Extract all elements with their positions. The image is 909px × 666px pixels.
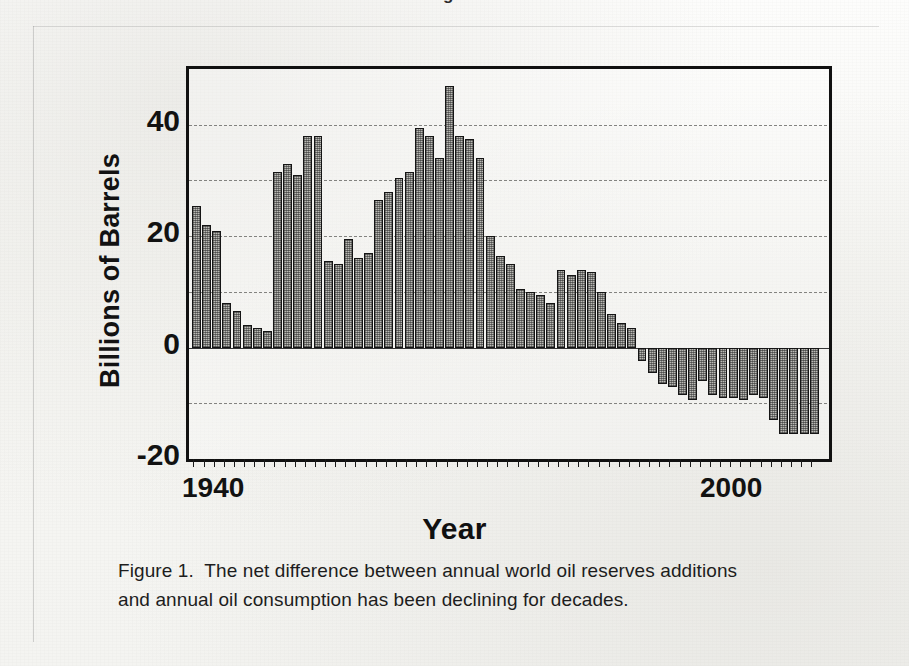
- bar-1999: [789, 348, 798, 434]
- bar-1952: [314, 136, 323, 348]
- x-tick-1976: [558, 459, 559, 467]
- x-tick-1946: [254, 459, 255, 467]
- y-tick-label-0: 0: [94, 329, 180, 359]
- x-tick-1985: [649, 459, 650, 467]
- x-tick-1962: [416, 459, 417, 467]
- bar-1967: [465, 139, 474, 348]
- x-tick-1972: [518, 459, 519, 467]
- x-tick-1998: [781, 459, 782, 467]
- x-tick-1988: [680, 459, 681, 467]
- x-tick-1983: [629, 459, 630, 467]
- x-tick-1984: [639, 459, 640, 467]
- bar-1973: [526, 292, 535, 348]
- x-tick-1967: [467, 459, 468, 467]
- x-tick-label-1940: 1940: [182, 474, 244, 502]
- bar-2000: [800, 348, 809, 434]
- bar-1957: [364, 253, 373, 348]
- x-tick-1970: [497, 459, 498, 467]
- plot-area: [186, 66, 832, 462]
- y-tick-label-20: 20: [94, 217, 180, 247]
- bar-1944: [233, 311, 242, 347]
- bar-1942: [212, 231, 221, 348]
- x-tick-1951: [305, 459, 306, 467]
- bar-1992: [719, 348, 728, 398]
- bar-1960: [395, 178, 404, 348]
- bar-1953: [324, 261, 333, 347]
- bar-1968: [476, 158, 485, 347]
- bar-1978: [577, 270, 586, 348]
- bar-1975: [546, 303, 555, 348]
- bar-1972: [516, 289, 525, 348]
- x-tick-1978: [578, 459, 579, 467]
- x-tick-1945: [244, 459, 245, 467]
- x-axis-title: Year: [0, 512, 909, 546]
- x-tick-1948: [274, 459, 275, 467]
- x-tick-1965: [447, 459, 448, 467]
- x-tick-1993: [730, 459, 731, 467]
- bar-1995: [749, 348, 758, 395]
- x-tick-1943: [224, 459, 225, 467]
- x-tick-1952: [315, 459, 316, 467]
- x-tick-1982: [619, 459, 620, 467]
- figure-1-chart: Billions of Barrels 40200-20 1940 2000 Y…: [0, 0, 909, 666]
- bar-1955: [344, 239, 353, 348]
- x-tick-1977: [568, 459, 569, 467]
- bar-1983: [627, 328, 636, 348]
- bar-1979: [587, 272, 596, 347]
- x-tick-1996: [761, 459, 762, 467]
- x-tick-1997: [771, 459, 772, 467]
- y-tick-label-40: 40: [94, 106, 180, 136]
- bar-1947: [263, 331, 272, 348]
- x-tick-1999: [791, 459, 792, 467]
- bar-1982: [617, 323, 626, 348]
- bar-1949: [283, 164, 292, 348]
- bar-2001: [810, 348, 819, 434]
- x-tick-1959: [386, 459, 387, 467]
- y-tick-label--20: -20: [94, 440, 180, 470]
- caption-line-2: and annual oil consumption has been decl…: [118, 585, 808, 614]
- bar-1951: [303, 136, 312, 348]
- bar-1954: [334, 264, 343, 348]
- bar-1959: [384, 192, 393, 348]
- bar-1993: [729, 348, 738, 398]
- x-tick-1942: [214, 459, 215, 467]
- x-tick-1975: [548, 459, 549, 467]
- x-tick-1989: [690, 459, 691, 467]
- bar-1980: [597, 292, 606, 348]
- bar-1984: [638, 348, 647, 362]
- x-tick-1994: [740, 459, 741, 467]
- figure-caption: Figure 1. The net difference between ann…: [118, 556, 808, 615]
- bar-1986: [658, 348, 667, 384]
- bar-1956: [354, 258, 363, 347]
- bar-1940: [192, 206, 201, 348]
- bar-1990: [698, 348, 707, 381]
- bar-1970: [496, 256, 505, 348]
- x-tick-label-2000: 2000: [700, 474, 762, 502]
- bar-1961: [405, 172, 414, 348]
- bar-1981: [607, 314, 616, 347]
- bar-1971: [506, 264, 515, 348]
- bar-1997: [769, 348, 778, 420]
- bar-1946: [253, 328, 262, 348]
- x-tick-1992: [720, 459, 721, 467]
- x-tick-2001: [811, 459, 812, 467]
- bar-1969: [486, 236, 495, 347]
- bar-1964: [435, 158, 444, 347]
- x-tick-2000: [801, 459, 802, 467]
- x-tick-1991: [710, 459, 711, 467]
- bar-1962: [415, 128, 424, 348]
- bar-1958: [374, 200, 383, 348]
- bar-1989: [688, 348, 697, 401]
- x-tick-1990: [700, 459, 701, 467]
- x-tick-1961: [406, 459, 407, 467]
- x-tick-1949: [285, 459, 286, 467]
- x-tick-1958: [376, 459, 377, 467]
- x-tick-1944: [234, 459, 235, 467]
- x-tick-1979: [588, 459, 589, 467]
- x-tick-1971: [507, 459, 508, 467]
- bar-1965: [445, 86, 454, 348]
- bar-1945: [243, 325, 252, 347]
- x-tick-1950: [295, 459, 296, 467]
- bar-1991: [708, 348, 717, 395]
- bar-series: [189, 69, 829, 459]
